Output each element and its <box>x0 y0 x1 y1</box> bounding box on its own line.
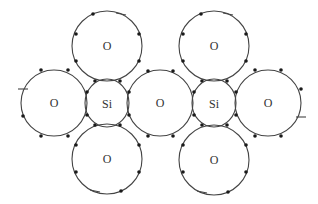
atom-label: Si <box>209 97 220 111</box>
electron-dot <box>171 69 175 73</box>
electron-dot <box>146 69 150 73</box>
electron-dot <box>244 59 248 63</box>
orbit-tick-mark <box>223 13 233 15</box>
electron-dot <box>66 68 70 72</box>
electron-dot <box>192 113 196 117</box>
sio2-electron-diagram: O O O O <box>0 0 318 204</box>
electron-dot <box>39 134 43 138</box>
electron-dot <box>137 170 141 174</box>
atom-o-bottom-right: O <box>179 123 249 195</box>
atom-label: O <box>156 96 165 110</box>
atom-label: O <box>210 153 219 167</box>
atom-label: O <box>264 96 273 110</box>
electron-dot <box>137 59 141 63</box>
atom-si-right: Si <box>192 79 238 127</box>
electron-dot <box>74 59 78 63</box>
orbit-tick-mark <box>116 13 126 15</box>
electron-dot <box>181 143 185 147</box>
electron-dot <box>21 114 25 118</box>
atom-label: Si <box>102 97 113 111</box>
electron-dot <box>244 170 248 174</box>
atom-label: O <box>103 39 112 53</box>
atom-o-mid-left: O <box>18 68 87 138</box>
electron-dot <box>119 189 123 193</box>
atom-o-mid-right: O <box>235 68 306 138</box>
electron-dot <box>253 134 257 138</box>
electron-dot <box>244 143 248 147</box>
electron-dot <box>181 170 185 174</box>
electron-dot <box>234 113 238 117</box>
atom-o-center: O <box>127 69 193 138</box>
electron-dot <box>146 134 150 138</box>
atom-o-bottom-left: O <box>72 123 142 194</box>
electron-dot <box>127 90 131 94</box>
electron-dot <box>74 32 78 36</box>
electron-dot <box>137 32 141 36</box>
electron-dot <box>137 143 141 147</box>
electron-dot <box>181 59 185 63</box>
electron-dot <box>199 12 203 16</box>
atom-label: O <box>50 96 59 110</box>
electron-dot <box>127 113 131 117</box>
electron-dot <box>244 32 248 36</box>
electron-dot <box>91 12 95 16</box>
electron-dot <box>171 134 175 138</box>
electron-dot <box>192 90 196 94</box>
atom-o-top-left: O <box>72 11 142 83</box>
electron-dot <box>66 134 70 138</box>
electron-dot <box>85 90 89 94</box>
electron-dot <box>74 143 78 147</box>
electron-dot <box>85 113 89 117</box>
electron-dot <box>253 68 257 72</box>
electron-dot <box>226 190 230 194</box>
electron-dot <box>299 87 303 91</box>
electron-dot <box>74 170 78 174</box>
electron-dot <box>181 32 185 36</box>
atom-label: O <box>103 152 112 166</box>
electron-dot <box>234 90 238 94</box>
electron-dot <box>279 68 283 72</box>
electron-dot <box>279 134 283 138</box>
atom-si-left: Si <box>85 79 131 127</box>
atom-label: O <box>210 39 219 53</box>
atom-o-top-right: O <box>179 11 249 83</box>
electron-dot <box>39 68 43 72</box>
